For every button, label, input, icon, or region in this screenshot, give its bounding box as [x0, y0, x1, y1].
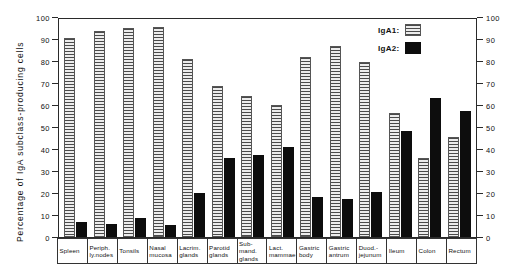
- category-label-line: Duod.-: [359, 244, 378, 251]
- y-tick-label-right: 80: [486, 58, 495, 67]
- bar-iga1: [359, 62, 370, 237]
- y-tick-label-right: 20: [486, 190, 495, 199]
- y-tick-label-right: 100: [486, 14, 500, 23]
- bar-iga1: [330, 46, 341, 237]
- category-label-line: Tonsils: [119, 247, 139, 254]
- category-label-box: Parotidglands: [207, 238, 238, 264]
- category-label-box: Nasalmucosa: [147, 238, 178, 264]
- category-label-line: ly.nodes: [89, 251, 113, 258]
- y-tick-left: [52, 105, 58, 106]
- y-tick-right: [477, 215, 483, 216]
- bar-iga1: [64, 38, 75, 237]
- category-label-line: Rectum: [448, 247, 470, 254]
- y-tick-label-right: 90: [486, 36, 495, 45]
- legend-entry-iga2: IgA2:: [378, 42, 421, 54]
- category-label-line: antrum: [329, 251, 349, 258]
- y-tick-label-right: 40: [486, 146, 495, 155]
- bar-iga1: [94, 31, 105, 237]
- category-label-line: Spleen: [60, 247, 80, 254]
- category-label-box: Colon: [416, 238, 447, 264]
- category-label-line: Gastric: [299, 244, 320, 251]
- category-label-box: Ileum: [386, 238, 417, 264]
- y-tick-right: [477, 149, 483, 150]
- legend-label-iga1: IgA1:: [378, 26, 400, 35]
- bar-group: [209, 19, 239, 237]
- bar-iga2: [430, 98, 441, 237]
- y-tick-right: [477, 193, 483, 194]
- bar-iga1: [389, 113, 400, 237]
- y-tick-label-right: 30: [486, 168, 495, 177]
- category-label-line: jejunum: [359, 251, 382, 258]
- chart-legend: IgA1: IgA2:: [378, 24, 421, 60]
- category-label-line: glands: [209, 251, 228, 258]
- y-tick-label-left: 100: [24, 14, 50, 23]
- category-label-line: Lact.: [269, 244, 283, 251]
- category-label-box: Duod.-jejunum: [356, 238, 387, 264]
- category-label-box: Gastricantrum: [326, 238, 357, 264]
- category-label-line: mammae: [269, 251, 296, 258]
- category-label-box: Sub-mand.glands: [237, 238, 268, 264]
- y-axis-title-container: Percentage of IgA subclass-producing cel…: [0, 0, 20, 245]
- category-label-line: Colon: [419, 247, 436, 254]
- bar-group: [445, 19, 475, 237]
- bar-group: [327, 19, 357, 237]
- category-label-line: mucosa: [149, 251, 172, 258]
- bar-group: [91, 19, 121, 237]
- category-label-line: glands: [179, 251, 198, 258]
- bar-iga1: [448, 137, 459, 237]
- bar-iga2: [194, 193, 205, 237]
- legend-label-iga2: IgA2:: [378, 44, 400, 53]
- y-tick-label-left: 20: [24, 190, 50, 199]
- y-tick-label-left: 70: [24, 80, 50, 89]
- bar-iga1: [123, 28, 134, 237]
- bar-group: [120, 19, 150, 237]
- category-label-box: Periph.ly.nodes: [87, 238, 118, 264]
- category-label-box: Spleen: [57, 238, 88, 264]
- bar-iga1: [153, 27, 164, 237]
- category-label-box: Lacrim.glands: [177, 238, 208, 264]
- y-tick-label-right: 10: [486, 212, 495, 221]
- y-tick-label-left: 50: [24, 124, 50, 133]
- y-tick-left: [52, 61, 58, 62]
- bar-iga2: [283, 147, 294, 237]
- category-label-line: Sub-: [239, 240, 253, 247]
- bar-iga2: [253, 155, 264, 238]
- bar-iga2: [401, 131, 412, 237]
- y-tick-label-right: 70: [486, 80, 495, 89]
- hatched-swatch-icon: [405, 24, 421, 36]
- legend-entry-iga1: IgA1:: [378, 24, 421, 36]
- category-label-line: body: [299, 251, 313, 258]
- bar-iga2: [135, 218, 146, 237]
- bar-iga1: [300, 57, 311, 237]
- bar-group: [61, 19, 91, 237]
- y-tick-left: [52, 215, 58, 216]
- bar-iga1: [182, 59, 193, 237]
- y-tick-right: [477, 39, 483, 40]
- category-label-line: mand.: [239, 247, 257, 254]
- bar-iga1: [241, 96, 252, 237]
- bar-iga1: [271, 105, 282, 237]
- category-label-box: Rectum: [446, 238, 477, 264]
- bar-iga2: [460, 111, 471, 238]
- y-tick-right: [477, 17, 483, 18]
- category-label-line: Ileum: [389, 247, 405, 254]
- category-label-box: Lact.mammae: [266, 238, 297, 264]
- bar-iga2: [312, 197, 323, 237]
- y-tick-label-right: 50: [486, 124, 495, 133]
- bar-iga2: [76, 222, 87, 237]
- category-label-line: glands: [239, 255, 258, 262]
- y-tick-left: [52, 149, 58, 150]
- y-tick-right: [477, 127, 483, 128]
- category-label-line: Gastric: [329, 244, 350, 251]
- y-tick-left: [52, 237, 58, 238]
- chart-figure: Percentage of IgA subclass-producing cel…: [0, 0, 517, 275]
- y-tick-right: [477, 61, 483, 62]
- y-tick-left: [52, 17, 58, 18]
- bar-iga2: [106, 224, 117, 237]
- bar-iga2: [342, 199, 353, 238]
- bar-iga2: [371, 192, 382, 237]
- solid-black-swatch-icon: [405, 42, 421, 54]
- y-tick-label-right: 60: [486, 102, 495, 111]
- y-tick-right: [477, 105, 483, 106]
- y-tick-label-left: 60: [24, 102, 50, 111]
